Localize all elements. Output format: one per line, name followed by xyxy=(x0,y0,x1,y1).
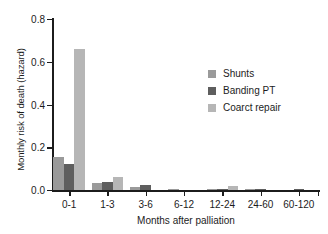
bar xyxy=(92,183,103,190)
y-tick-mark xyxy=(47,147,52,148)
chart-figure: Monthly risk of death (hazard) 0.00.20.4… xyxy=(0,0,328,234)
y-tick-label: 0.4 xyxy=(31,99,45,110)
legend-label: Coarct repair xyxy=(223,103,281,113)
bar xyxy=(168,189,179,190)
bar-group xyxy=(53,19,85,190)
bar-group xyxy=(130,19,162,190)
legend-item: Banding PT xyxy=(208,84,320,97)
bar xyxy=(245,189,256,190)
bar xyxy=(207,189,218,190)
bar-group xyxy=(92,19,124,190)
x-tick-label: 3-6 xyxy=(138,199,152,210)
bar xyxy=(130,187,141,190)
y-tick-label: 0.6 xyxy=(31,56,45,67)
legend-item: Shunts xyxy=(208,67,320,80)
y-tick-mark xyxy=(47,105,52,106)
x-tick-label: 1-3 xyxy=(100,199,114,210)
x-tick-mark xyxy=(107,191,108,196)
bar xyxy=(228,186,239,190)
y-tick-label: 0.8 xyxy=(31,14,45,25)
legend-label: Shunts xyxy=(223,69,254,79)
bar xyxy=(255,189,266,190)
bar xyxy=(140,185,151,190)
x-tick-mark xyxy=(184,191,185,196)
bar xyxy=(64,164,75,190)
legend-label: Banding PT xyxy=(223,86,275,96)
x-tick-label: 60-120 xyxy=(283,199,314,210)
bar xyxy=(113,177,124,190)
chart-legend: ShuntsBanding PTCoarct repair xyxy=(208,67,320,118)
x-tick-label: 12-24 xyxy=(209,199,235,210)
x-tick-mark xyxy=(69,191,70,196)
y-tick-label: 0.2 xyxy=(31,142,45,153)
legend-swatch-icon xyxy=(208,70,216,78)
y-tick-mark xyxy=(47,62,52,63)
x-axis-title: Months after palliation xyxy=(52,215,320,226)
x-tick-mark xyxy=(261,191,262,196)
x-tick-mark xyxy=(146,191,147,196)
legend-swatch-icon xyxy=(208,87,216,95)
legend-item: Coarct repair xyxy=(208,101,320,114)
bar xyxy=(294,189,305,190)
legend-swatch-icon xyxy=(208,104,216,112)
x-tick-label: 24-60 xyxy=(248,199,274,210)
bar xyxy=(217,189,228,190)
x-tick-label: 6-12 xyxy=(174,199,194,210)
y-axis-title: Monthly risk of death (hazard) xyxy=(15,20,26,200)
bar xyxy=(74,49,85,190)
y-tick-label: 0.0 xyxy=(31,185,45,196)
x-tick-mark xyxy=(222,191,223,196)
x-tick-mark xyxy=(318,191,319,196)
bar xyxy=(102,182,113,190)
bar xyxy=(53,157,64,190)
y-tick-mark xyxy=(47,19,52,20)
bar-group xyxy=(168,19,200,190)
x-tick-label: 0-1 xyxy=(62,199,76,210)
x-tick-mark xyxy=(299,191,300,196)
